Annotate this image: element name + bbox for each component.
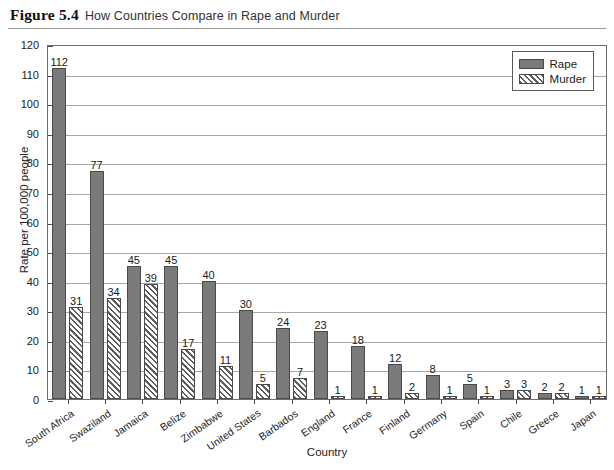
- bar-value-label: 30: [240, 298, 252, 310]
- bar-rape[interactable]: 3: [500, 390, 514, 399]
- bar-value-label: 3: [504, 378, 510, 390]
- chart-canvas: Rate per 100,000 people 0102030405060708…: [0, 34, 614, 470]
- x-tick-mark: [441, 399, 442, 404]
- bar-value-label: 8: [429, 363, 435, 375]
- x-tick-mark: [329, 399, 330, 404]
- bar-group[interactable]: 22: [538, 46, 569, 399]
- bar-value-label: 12: [389, 352, 401, 364]
- y-tick-label: 10: [0, 364, 39, 376]
- bar-murder[interactable]: 1: [368, 396, 382, 399]
- figure-label: Figure 5.4: [10, 6, 79, 23]
- bar-group[interactable]: 4539: [127, 46, 158, 399]
- bar-rape[interactable]: 2: [538, 393, 552, 399]
- bar-value-label: 31: [70, 295, 82, 307]
- bar-murder[interactable]: 17: [181, 349, 195, 399]
- legend-label-murder: Murder: [550, 73, 586, 85]
- bar-rape[interactable]: 45: [164, 266, 178, 399]
- x-tick-mark: [217, 399, 218, 404]
- bar-value-label: 2: [558, 381, 564, 393]
- bar-value-label: 1: [446, 384, 452, 396]
- bar-group[interactable]: 122: [388, 46, 419, 399]
- bar-rape[interactable]: 5: [463, 384, 477, 399]
- bar-murder[interactable]: 1: [592, 396, 606, 399]
- bar-value-label: 40: [202, 269, 214, 281]
- x-tick-mark: [404, 399, 405, 404]
- bar-value-label: 77: [90, 159, 102, 171]
- x-tick-mark: [180, 399, 181, 404]
- bar-rape[interactable]: 12: [388, 364, 402, 400]
- y-tick-label: 40: [0, 276, 39, 288]
- legend-swatch-murder-icon: [519, 74, 544, 84]
- y-tick-label: 90: [0, 128, 39, 140]
- bar-group[interactable]: 81: [426, 46, 457, 399]
- bar-murder[interactable]: 1: [443, 396, 457, 399]
- bar-group[interactable]: 305: [239, 46, 270, 399]
- x-tick-mark: [366, 399, 367, 404]
- chart-legend: Rape Murder: [512, 51, 594, 91]
- y-tick-label: 110: [0, 69, 39, 81]
- x-tick-mark: [478, 399, 479, 404]
- y-tick-label: 100: [0, 98, 39, 110]
- x-tick-mark: [142, 399, 143, 404]
- x-tick-mark: [254, 399, 255, 404]
- bar-value-label: 17: [182, 337, 194, 349]
- bar-value-label: 23: [314, 319, 326, 331]
- bar-group[interactable]: 4517: [164, 46, 195, 399]
- bar-murder[interactable]: 5: [256, 384, 270, 399]
- bar-group[interactable]: 247: [276, 46, 307, 399]
- bar-rape[interactable]: 77: [90, 171, 104, 399]
- bar-rape[interactable]: 40: [202, 281, 216, 399]
- bar-rape[interactable]: 30: [239, 310, 253, 399]
- y-tick-label: 120: [0, 39, 39, 51]
- bar-murder[interactable]: 31: [69, 307, 83, 399]
- bar-value-label: 112: [50, 56, 68, 68]
- bar-rape[interactable]: 8: [426, 375, 440, 399]
- bar-value-label: 11: [220, 354, 231, 366]
- x-tick-mark: [516, 399, 517, 404]
- bar-group[interactable]: 11: [575, 46, 606, 399]
- bar-group[interactable]: 4011: [202, 46, 233, 399]
- bar-murder[interactable]: 1: [331, 396, 345, 399]
- bar-value-label: 1: [579, 384, 585, 396]
- y-tick-label: 30: [0, 305, 39, 317]
- bar-rape[interactable]: 1: [575, 396, 589, 399]
- x-tick-mark: [553, 399, 554, 404]
- bar-group[interactable]: 231: [314, 46, 345, 399]
- bar-rape[interactable]: 45: [127, 266, 141, 399]
- bar-murder[interactable]: 1: [480, 396, 494, 399]
- bar-group[interactable]: 11231: [52, 46, 83, 399]
- bar-murder[interactable]: 7: [293, 378, 307, 399]
- legend-label-rape: Rape: [550, 58, 578, 70]
- bar-value-label: 18: [352, 334, 364, 346]
- bar-murder[interactable]: 2: [405, 393, 419, 399]
- bar-group[interactable]: 51: [463, 46, 494, 399]
- bar-murder[interactable]: 34: [107, 298, 121, 399]
- bar-rape[interactable]: 23: [314, 331, 328, 399]
- bar-value-label: 2: [409, 381, 415, 393]
- bar-murder[interactable]: 11: [219, 366, 233, 399]
- bar-group[interactable]: 181: [351, 46, 382, 399]
- bar-value-label: 3: [521, 378, 527, 390]
- bar-value-label: 5: [260, 372, 266, 384]
- y-tick-label: 50: [0, 246, 39, 258]
- legend-item-murder: Murder: [519, 71, 586, 86]
- bar-rape[interactable]: 18: [351, 346, 365, 399]
- y-tick-label: 80: [0, 157, 39, 169]
- bar-value-label: 5: [467, 372, 473, 384]
- legend-swatch-rape-icon: [519, 59, 544, 69]
- bar-murder[interactable]: 2: [555, 393, 569, 399]
- bar-rape[interactable]: 112: [52, 68, 66, 399]
- bar-value-label: 2: [541, 381, 547, 393]
- bar-murder[interactable]: 39: [144, 284, 158, 399]
- bar-group[interactable]: 33: [500, 46, 531, 399]
- bar-murder[interactable]: 3: [517, 390, 531, 399]
- bar-value-label: 7: [297, 366, 303, 378]
- x-tick-mark: [292, 399, 293, 404]
- bar-group[interactable]: 7734: [90, 46, 121, 399]
- bar-rape[interactable]: 24: [276, 328, 290, 399]
- bar-value-label: 39: [145, 272, 157, 284]
- bar-value-label: 45: [128, 254, 140, 266]
- figure-title: How Countries Compare in Rape and Murder: [85, 9, 340, 23]
- y-tick-mark: [48, 401, 53, 402]
- y-tick-label: 60: [0, 217, 39, 229]
